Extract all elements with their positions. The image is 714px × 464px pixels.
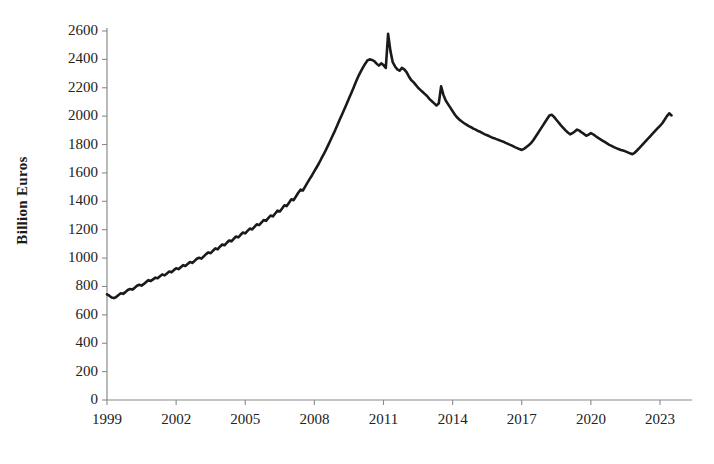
chart-figure: Billion Euros 02004006008001000120014001…: [0, 0, 714, 464]
y-tick-label: 800: [38, 278, 98, 293]
x-tick-label: 2017: [492, 412, 552, 427]
plot-area: 0200400600800100012001400160018002000220…: [0, 0, 714, 464]
y-tick-label: 1200: [38, 222, 98, 237]
x-tick-label: 2023: [630, 412, 690, 427]
x-tick-label: 2020: [561, 412, 621, 427]
y-tick-label: 1000: [38, 250, 98, 265]
y-tick-label: 1400: [38, 193, 98, 208]
data-series-group: [107, 34, 672, 298]
y-tick-label: 600: [38, 307, 98, 322]
line-chart-svg: [0, 0, 714, 464]
x-tick-label: 1999: [77, 412, 137, 427]
data-line: [107, 34, 672, 298]
x-tick-label: 2002: [146, 412, 206, 427]
x-tick-label: 2014: [423, 412, 483, 427]
x-tick-marks: [107, 400, 660, 405]
y-tick-label: 2600: [38, 23, 98, 38]
x-tick-label: 2008: [284, 412, 344, 427]
y-tick-label: 2000: [38, 108, 98, 123]
y-tick-label: 2200: [38, 80, 98, 95]
x-tick-label: 2005: [215, 412, 275, 427]
y-tick-label: 400: [38, 335, 98, 350]
axis-group: [107, 28, 692, 400]
y-tick-label: 1800: [38, 137, 98, 152]
y-tick-marks: [102, 31, 107, 400]
y-tick-label: 0: [38, 392, 98, 407]
x-tick-label: 2011: [354, 412, 414, 427]
y-tick-label: 2400: [38, 51, 98, 66]
y-tick-label: 1600: [38, 165, 98, 180]
y-tick-label: 200: [38, 364, 98, 379]
